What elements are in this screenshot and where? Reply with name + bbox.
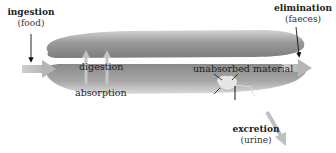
unabsorbed-material-label: unabsorbed material [193,63,293,74]
digestion-label: digestion [79,61,123,72]
excretion-title: excretion [225,124,287,135]
excretion-label: excretion (urine) [225,124,287,146]
ingestion-title: ingestion [1,7,61,18]
ingestion-subtitle: (food) [1,18,61,29]
elimination-subtitle: (faeces) [270,14,336,25]
absorption-label: absorption [75,87,127,98]
excretion-subtitle: (urine) [225,135,287,146]
elimination-title: elimination [270,3,336,14]
ingestion-label: ingestion (food) [1,7,61,29]
elimination-label: elimination (faeces) [270,3,336,25]
